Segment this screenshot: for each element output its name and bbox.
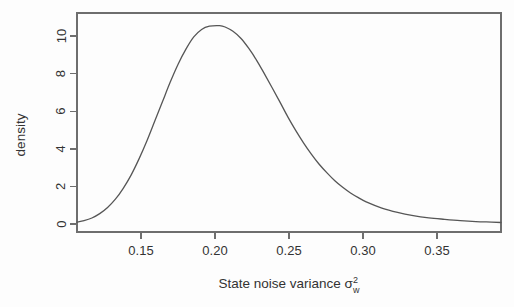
x-tick-label-0.15: 0.15	[128, 243, 153, 258]
x-tick-label-0.30: 0.30	[350, 243, 375, 258]
y-tick-label-8: 8	[54, 70, 69, 77]
y-axis-title: density	[13, 113, 28, 156]
density-curve	[77, 26, 501, 223]
y-tick-label-4: 4	[54, 145, 69, 152]
x-axis-ticks	[141, 232, 437, 239]
y-tick-label-2: 2	[54, 183, 69, 190]
x-axis-tick-labels: 0.15 0.20 0.25 0.30 0.35	[128, 243, 449, 258]
y-axis-tick-labels: 0 2 4 6 8 10	[54, 29, 69, 228]
x-tick-label-0.25: 0.25	[276, 243, 301, 258]
y-axis-ticks	[70, 36, 77, 224]
x-axis-title-superscript: 2	[353, 275, 358, 285]
plot-box-frame	[77, 13, 501, 232]
x-tick-label-0.20: 0.20	[202, 243, 227, 258]
y-tick-label-6: 6	[54, 108, 69, 115]
y-tick-label-0: 0	[54, 220, 69, 227]
x-axis-title: State noise variance σ2w	[219, 275, 360, 295]
x-tick-label-0.35: 0.35	[424, 243, 449, 258]
x-axis-title-subscript: w	[352, 285, 360, 295]
svg-text:State noise variance σ2w: State noise variance σ2w	[219, 275, 360, 295]
figure-canvas: 0 2 4 6 8 10 0.15 0.20 0.25 0.30 0.35 de…	[0, 0, 514, 307]
density-plot: 0 2 4 6 8 10 0.15 0.20 0.25 0.30 0.35 de…	[0, 0, 514, 307]
x-axis-title-text: State noise variance	[219, 276, 341, 291]
y-tick-label-10: 10	[54, 29, 69, 43]
